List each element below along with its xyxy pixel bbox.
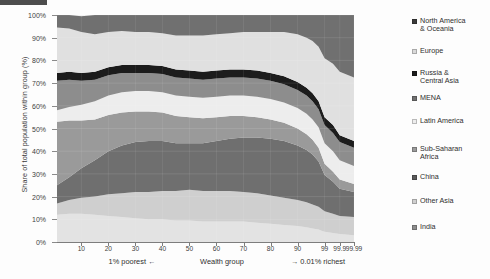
x-axis-title: Wealth group <box>200 257 244 266</box>
y-tick-mark <box>52 60 57 61</box>
y-tick-mark <box>52 15 57 16</box>
legend-label: Europe <box>420 47 443 55</box>
x-note-richest: → 0.01% richest <box>291 257 345 266</box>
y-tick-label: 50% <box>32 125 46 132</box>
y-tick-label: 20% <box>32 193 46 200</box>
legend-label: Other Asia <box>420 197 454 205</box>
legend-swatch <box>412 199 417 204</box>
legend-label: MENA <box>420 94 441 102</box>
x-axis-captions: 1% poorest ← Wealth group → 0.01% riches… <box>0 257 400 271</box>
y-tick-mark <box>52 151 57 152</box>
y-tick-mark <box>52 242 57 243</box>
legend: North America & OceaniaEuropeRussia & Ce… <box>412 17 490 243</box>
x-tick-label: 90 <box>294 245 301 252</box>
y-tick-mark <box>52 83 57 84</box>
x-tick-label: 60 <box>213 245 220 252</box>
legend-swatch <box>412 96 417 101</box>
legend-swatch <box>412 119 417 124</box>
x-note-poorest: 1% poorest ← <box>109 257 156 266</box>
y-tick-label: 40% <box>32 148 46 155</box>
y-tick-mark <box>52 129 57 130</box>
y-tick-label: 90% <box>32 34 46 41</box>
y-tick-mark <box>52 219 57 220</box>
legend-item[interactable]: Other Asia <box>412 197 454 205</box>
legend-label: Sub-Saharan Africa <box>420 145 462 162</box>
legend-item[interactable]: Russia & Central Asia <box>412 69 459 86</box>
legend-swatch <box>412 71 417 76</box>
legend-item[interactable]: China <box>412 173 439 181</box>
y-tick-mark <box>52 197 57 198</box>
legend-swatch <box>412 225 417 230</box>
legend-swatch <box>412 19 417 24</box>
legend-item[interactable]: Europe <box>412 47 443 55</box>
y-tick-label: 70% <box>32 80 46 87</box>
legend-label: China <box>420 173 439 181</box>
x-tick-label: 99 <box>321 245 328 252</box>
y-tick-mark <box>52 106 57 107</box>
stacked-area-svg <box>57 15 354 242</box>
legend-swatch <box>412 175 417 180</box>
x-tick-label: 20 <box>105 245 112 252</box>
legend-item[interactable]: North America & Oceania <box>412 17 466 34</box>
y-tick-label: 30% <box>32 170 46 177</box>
x-tick-label: 10 <box>78 245 85 252</box>
legend-item[interactable]: Sub-Saharan Africa <box>412 145 462 162</box>
x-axis-tick-labels: 1020304050607080909999.999.99 <box>0 245 400 257</box>
legend-item[interactable]: Latin America <box>412 117 464 125</box>
legend-label: Russia & Central Asia <box>420 69 459 86</box>
x-tick-label: 99.9 <box>333 245 346 252</box>
y-tick-label: 100% <box>28 12 46 19</box>
x-tick-label: 30 <box>132 245 139 252</box>
legend-swatch <box>412 147 417 152</box>
legend-label: North America & Oceania <box>420 17 466 34</box>
y-axis-labels: 0%10%20%30%40%50%60%70%80%90%100% <box>0 15 54 242</box>
y-tick-label: 10% <box>32 216 46 223</box>
y-tick-label: 60% <box>32 102 46 109</box>
legend-label: Latin America <box>420 117 464 125</box>
x-tick-label: 40 <box>159 245 166 252</box>
y-tick-mark <box>52 174 57 175</box>
legend-item[interactable]: India <box>412 223 436 231</box>
legend-swatch <box>412 49 417 54</box>
x-tick-label: 99.99 <box>346 245 363 252</box>
x-tick-label: 50 <box>186 245 193 252</box>
x-tick-label: 80 <box>267 245 274 252</box>
y-tick-label: 80% <box>32 57 46 64</box>
chart-root: Share of total population within group (… <box>0 0 490 279</box>
x-tick-label: 70 <box>240 245 247 252</box>
legend-label: India <box>420 223 436 231</box>
plot-area <box>57 15 354 242</box>
y-tick-mark <box>52 38 57 39</box>
crop-artifact-bar <box>0 0 47 5</box>
legend-item[interactable]: MENA <box>412 94 441 102</box>
